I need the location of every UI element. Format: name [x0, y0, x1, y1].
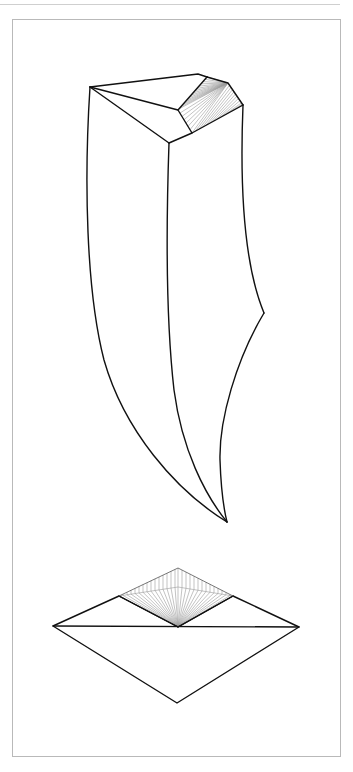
plan-edges: [53, 568, 299, 703]
terminal-face-hatching: [178, 77, 243, 133]
crystal-figure: [0, 0, 353, 772]
plan-view: [53, 568, 299, 703]
plan-face-hatching: [119, 568, 233, 627]
crystal-edges: [87, 74, 264, 522]
clinographic-view: [87, 74, 264, 522]
